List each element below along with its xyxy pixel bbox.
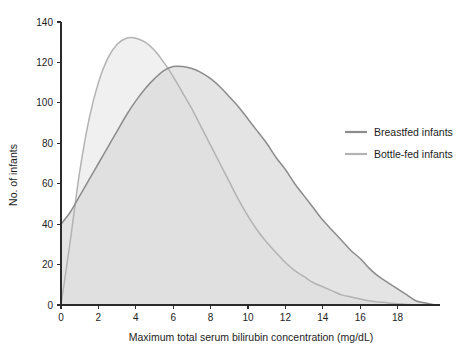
chart-figure: 020406080100120140 024681012141618 No. o… [0,0,473,355]
x-tick-label: 0 [58,312,64,323]
distribution-chart: 020406080100120140 024681012141618 No. o… [0,0,473,355]
x-tick-label: 16 [355,312,367,323]
y-tick-label: 40 [42,219,54,230]
y-tick-label: 0 [47,300,53,311]
y-tick-label: 80 [42,138,54,149]
x-tick-label: 8 [208,312,214,323]
x-tick-label: 4 [133,312,139,323]
y-tick-label: 60 [42,178,54,189]
legend-label-bottle-fed-infants: Bottle-fed infants [374,148,453,160]
x-tick-label: 18 [392,312,404,323]
x-tick-label: 14 [317,312,329,323]
x-tick-label: 12 [280,312,292,323]
y-tick-label: 100 [36,97,53,108]
y-axis-title: No. of infants [7,144,19,206]
x-tick-label: 6 [170,312,176,323]
x-tick-label: 10 [242,312,254,323]
x-tick-label: 2 [96,312,102,323]
legend-label-breastfed-infants: Breastfed infants [374,126,453,138]
x-axis-title: Maximum total serum bilirubin concentrat… [129,331,374,343]
y-tick-label: 20 [42,259,54,270]
y-tick-label: 140 [36,17,53,28]
y-tick-label: 120 [36,57,53,68]
